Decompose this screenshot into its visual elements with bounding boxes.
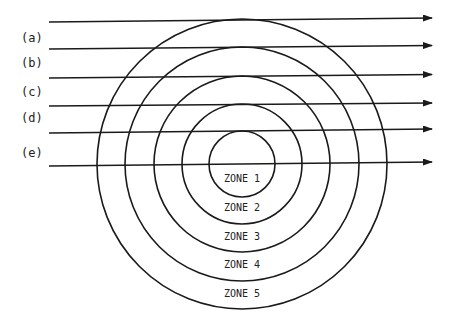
zone-label-1: ZONE 1 xyxy=(224,173,260,184)
ray-arrow-3 xyxy=(49,75,432,79)
ray-label: (e) xyxy=(21,146,43,160)
ray-arrow-6 xyxy=(49,162,432,166)
ray-label: (b) xyxy=(21,56,43,70)
zone-label-4: ZONE 4 xyxy=(224,259,260,270)
ray-label: (a) xyxy=(21,31,43,45)
ray-label: (d) xyxy=(21,111,43,125)
ray-arrows xyxy=(49,18,432,166)
ray-labels: (a)(b)(c)(d)(e) xyxy=(21,31,43,160)
zone-label-3: ZONE 3 xyxy=(224,231,260,242)
concentric-zone-diagram: (a)(b)(c)(d)(e) ZONE 1ZONE 2ZONE 3ZONE 4… xyxy=(0,0,458,326)
ray-label: (c) xyxy=(21,85,43,99)
ray-arrow-5 xyxy=(49,129,432,133)
ray-arrow-2 xyxy=(49,46,432,50)
zone-label-2: ZONE 2 xyxy=(224,202,260,213)
zone-label-5: ZONE 5 xyxy=(224,288,260,299)
